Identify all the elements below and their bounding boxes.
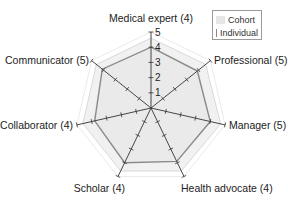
category-label: Professional (5) bbox=[214, 54, 288, 66]
legend-item-individual: Individual bbox=[216, 26, 258, 39]
category-label: Health advocate (4) bbox=[181, 182, 273, 194]
legend: Cohort Individual bbox=[212, 10, 262, 40]
category-label: Collaborator (4) bbox=[0, 119, 73, 131]
svg-text:4: 4 bbox=[155, 42, 161, 53]
individual-swatch bbox=[216, 29, 217, 37]
svg-text:1: 1 bbox=[155, 87, 161, 98]
cohort-swatch bbox=[216, 16, 225, 24]
category-label: Manager (5) bbox=[229, 119, 286, 131]
svg-text:2: 2 bbox=[155, 72, 161, 83]
legend-label: Cohort bbox=[228, 15, 255, 25]
svg-text:3: 3 bbox=[155, 57, 161, 68]
category-label: Communicator (5) bbox=[5, 54, 89, 66]
legend-item-cohort: Cohort bbox=[216, 13, 258, 26]
category-label: Scholar (4) bbox=[74, 182, 125, 194]
legend-label: Individual bbox=[220, 28, 258, 38]
category-label: Medical expert (4) bbox=[109, 12, 193, 24]
svg-text:5: 5 bbox=[155, 27, 161, 38]
